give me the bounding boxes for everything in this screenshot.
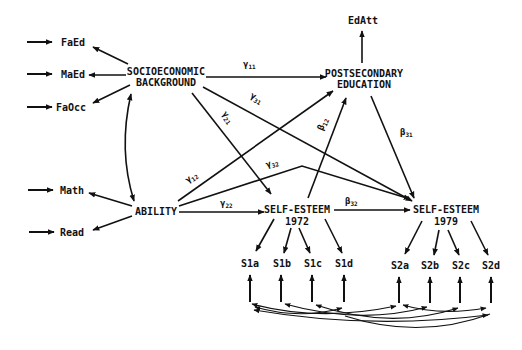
node-socioeconomic-background: SOCIOECONOMIC BACKGROUND: [127, 66, 205, 88]
indicator-s1c: S1c: [304, 258, 322, 269]
indicator-read: Read: [60, 227, 84, 238]
coef-beta12: β12: [315, 116, 330, 132]
svg-text:SELF-ESTEEM: SELF-ESTEEM: [264, 204, 330, 215]
loading-se72-s1b: [284, 228, 291, 253]
svg-text:1972: 1972: [285, 216, 309, 227]
node-self-esteem-1979: SELF-ESTEEM 1979: [413, 204, 479, 227]
indicator-edatt: EdAtt: [348, 15, 378, 26]
svg-text:POSTSECONDARY: POSTSECONDARY: [325, 68, 403, 79]
loading-se72-s1d: [325, 219, 342, 253]
svg-text:1979: 1979: [434, 216, 458, 227]
correlation-ses-ability: [125, 94, 134, 201]
loading-se79-s2d: [471, 221, 488, 255]
node-self-esteem-1972: SELF-ESTEEM 1972: [264, 204, 330, 227]
coef-gamma21: γ21: [219, 109, 235, 126]
indicator-faocc: FaOcc: [56, 102, 86, 113]
loading-se79-s2b: [434, 230, 439, 255]
svg-text:SOCIOECONOMIC: SOCIOECONOMIC: [127, 66, 205, 77]
loading-se79-s2a: [405, 221, 422, 254]
path-gamma32: [179, 166, 410, 206]
coef-gamma12: γ12: [183, 169, 200, 185]
coef-beta31: β31: [400, 127, 413, 138]
node-postsecondary-education: POSTSECONDARY EDUCATION: [325, 68, 403, 90]
indicator-faed: FaEd: [61, 37, 85, 48]
loading-se72-s1c: [299, 228, 310, 253]
path-gamma31: [203, 87, 412, 201]
coef-gamma32: γ32: [264, 156, 280, 170]
node-ability: ABILITY: [135, 206, 177, 217]
indicator-s2c: S2c: [452, 260, 470, 271]
corr-s1c-s2c: [316, 305, 458, 318]
indicator-s1a: S1a: [241, 258, 259, 269]
indicator-maed: MaEd: [61, 69, 85, 80]
loading-ses-faed: [93, 47, 128, 64]
loading-se79-s2c: [448, 230, 459, 255]
loading-ability-read: [93, 216, 132, 230]
indicator-error-arrows-left: [27, 42, 54, 232]
coef-gamma31: γ31: [248, 90, 265, 106]
loading-se72-s1a: [256, 219, 274, 251]
indicator-s1b: S1b: [273, 258, 291, 269]
indicator-s2b: S2b: [421, 260, 439, 271]
correlated-errors: [252, 304, 490, 328]
coef-gamma11: γ11: [243, 59, 256, 70]
path-diagram: FaEd MaEd FaOcc Math Read SOCIOECONOMIC …: [0, 0, 522, 350]
svg-text:BACKGROUND: BACKGROUND: [136, 77, 196, 88]
coef-gamma22: γ22: [220, 198, 233, 209]
loading-ability-math: [89, 193, 132, 206]
svg-text:SELF-ESTEEM: SELF-ESTEEM: [413, 204, 479, 215]
indicator-s1d: S1d: [335, 258, 353, 269]
indicator-math: Math: [60, 185, 84, 196]
loading-ses-faocc: [93, 85, 130, 103]
indicator-s2d: S2d: [482, 260, 500, 271]
coef-beta32: β32: [345, 196, 358, 207]
indicator-error-arrows-bottom: [250, 275, 491, 303]
indicator-s2a: S2a: [391, 260, 409, 271]
svg-text:EDUCATION: EDUCATION: [337, 79, 391, 90]
